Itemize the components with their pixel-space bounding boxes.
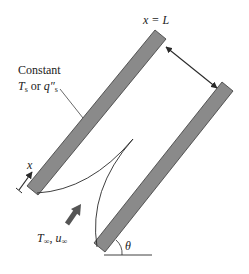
freestream-label: T∞, u∞ [37, 232, 67, 246]
flow-direction-arrow [67, 204, 81, 224]
left-plate [27, 30, 166, 195]
constant-label: Constant [18, 64, 61, 76]
u-inf-subscript: ∞ [61, 237, 67, 246]
plate-spacing-double-arrow [166, 47, 217, 88]
qs-symbol: q″ [44, 79, 55, 93]
qs-subscript: s [55, 85, 58, 94]
or-text: or [28, 79, 44, 93]
boundary-condition-label: Ts or q″s [18, 80, 58, 94]
constant-leader-line [60, 89, 83, 118]
x-coordinate-tick [16, 188, 22, 193]
ts-symbol: T [18, 79, 25, 93]
x-axis-label: x [27, 159, 32, 171]
right-plate [94, 82, 233, 252]
x-equals-l-label: x = L [143, 14, 169, 26]
theta-label: θ [125, 240, 131, 252]
t-inf-symbol: T [37, 231, 44, 245]
inclination-angle-arc [116, 240, 122, 255]
